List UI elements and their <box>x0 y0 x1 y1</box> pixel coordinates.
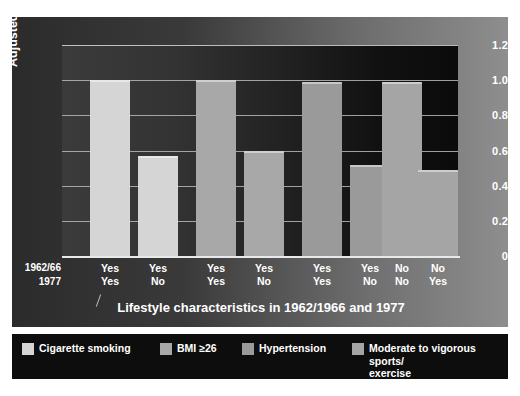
bar-highlight <box>90 80 130 82</box>
x-category-2-row1: Yes <box>138 262 178 275</box>
bar-sports-no-no <box>382 82 422 256</box>
figure: Adjusted relative risk 1.2 1.0 0.8 0.6 0… <box>0 0 520 396</box>
legend-item-sports-exercise: Moderate to vigorous sports/ exercise <box>352 342 508 380</box>
bar-highlight <box>418 170 458 172</box>
legend-item-hypertension: Hypertension <box>242 342 326 355</box>
x-category-3-row2: Yes <box>196 275 236 288</box>
y-tick-0_8: 0.8 <box>464 109 508 121</box>
x-category-5: Yes Yes <box>302 262 342 288</box>
chart-panel: Adjusted relative risk 1.2 1.0 0.8 0.6 0… <box>12 17 508 327</box>
gridline-1_2 <box>62 45 458 46</box>
bar-cigarette-yes-no <box>138 156 178 256</box>
x-category-4-row1: Yes <box>244 262 284 275</box>
legend-swatch-hypertension <box>242 343 254 355</box>
bar-highlight <box>302 82 342 84</box>
y-tick-1_2: 1.2 <box>464 39 508 51</box>
legend-item-bmi: BMI ≥26 <box>160 342 217 355</box>
x-category-8: No Yes <box>418 262 458 288</box>
x-category-8-row2: Yes <box>418 275 458 288</box>
x-row-label-1977: 1977 <box>15 276 61 287</box>
x-category-7-row2: No <box>382 275 422 288</box>
legend-label-bmi: BMI ≥26 <box>177 342 217 355</box>
x-category-4-row2: No <box>244 275 284 288</box>
x-axis-title: Lifestyle characteristics in 1962/1966 a… <box>62 300 460 315</box>
bar-highlight <box>138 156 178 158</box>
x-category-1: Yes Yes <box>90 262 130 288</box>
bar-cigarette-yes-yes <box>90 80 130 256</box>
x-category-1-row2: Yes <box>90 275 130 288</box>
x-category-5-row1: Yes <box>302 262 342 275</box>
x-category-3: Yes Yes <box>196 262 236 288</box>
x-category-1-row1: Yes <box>90 262 130 275</box>
legend-label-sports-exercise: Moderate to vigorous sports/ exercise <box>369 342 508 380</box>
legend-label-cigarette-smoking: Cigarette smoking <box>39 342 131 355</box>
plot-area <box>62 45 458 256</box>
y-tick-0_4: 0.4 <box>464 180 508 192</box>
legend-swatch-sports-exercise <box>352 343 364 355</box>
bar-highlight <box>196 80 236 82</box>
x-category-2-row2: No <box>138 275 178 288</box>
x-category-5-row2: Yes <box>302 275 342 288</box>
bar-highlight <box>244 151 284 153</box>
bar-sports-no-yes <box>418 170 458 256</box>
legend-swatch-bmi <box>160 343 172 355</box>
x-category-7: No No <box>382 262 422 288</box>
legend-swatch-cigarette-smoking <box>22 343 34 355</box>
x-row-label-1962-66: 1962/66 <box>15 262 61 273</box>
x-category-3-row1: Yes <box>196 262 236 275</box>
y-axis-title: Adjusted relative risk <box>6 0 20 67</box>
x-category-4: Yes No <box>244 262 284 288</box>
bar-bmi-yes-yes <box>196 80 236 256</box>
y-tick-1_0: 1.0 <box>464 74 508 86</box>
chart-legend: Cigarette smoking BMI ≥26 Hypertension M… <box>12 334 508 379</box>
x-category-2: Yes No <box>138 262 178 288</box>
y-tick-0: 0 <box>464 250 508 262</box>
x-category-8-row1: No <box>418 262 458 275</box>
legend-label-hypertension: Hypertension <box>259 342 326 355</box>
bar-highlight <box>382 82 422 84</box>
y-tick-0_6: 0.6 <box>464 145 508 157</box>
x-category-7-row1: No <box>382 262 422 275</box>
legend-item-cigarette-smoking: Cigarette smoking <box>22 342 131 355</box>
bar-bmi-yes-no <box>244 151 284 257</box>
bar-hypertension-yes-yes <box>302 82 342 256</box>
y-tick-0_2: 0.2 <box>464 215 508 227</box>
x-axis-baseline <box>62 256 460 258</box>
